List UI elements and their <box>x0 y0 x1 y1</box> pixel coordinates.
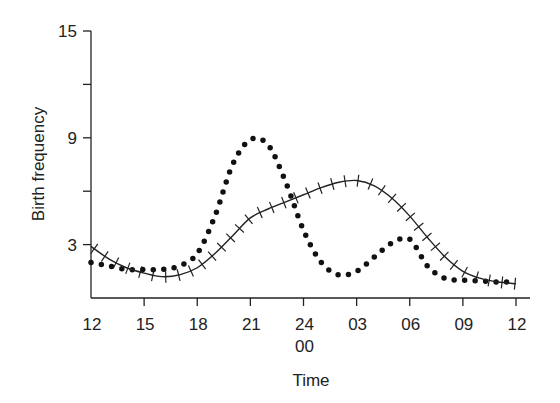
series-cross-tick <box>462 267 468 278</box>
x-tick-label: 15 <box>136 315 155 334</box>
x-tick-label: 03 <box>348 315 367 334</box>
x-tick-label: 09 <box>454 315 473 334</box>
chart: 3915 12151821240003060912 Time Birth fre… <box>0 0 560 403</box>
series-dotted <box>91 138 516 282</box>
x-tick-label: 21 <box>242 315 261 334</box>
series-layer <box>91 138 516 290</box>
series-cross-tick <box>91 244 98 254</box>
series-cross-tick <box>514 278 515 290</box>
x-tick-label: 12 <box>508 315 527 334</box>
y-tick-label: 15 <box>58 22 77 41</box>
y-axis-title: Birth frequency <box>29 106 48 221</box>
y-tick-label: 9 <box>68 129 77 148</box>
series-cross-tick <box>198 260 205 270</box>
x-tick-label: 00 <box>295 337 314 356</box>
axes <box>91 31 530 298</box>
y-ticks: 3915 <box>58 22 91 255</box>
x-tick-label: 06 <box>401 315 420 334</box>
x-axis-title: Time <box>292 371 329 390</box>
series-cross-tick <box>378 185 385 195</box>
series-cross-tick <box>357 175 359 187</box>
y-tick-label: 3 <box>68 236 77 255</box>
series-cross-tick <box>501 277 502 289</box>
x-tick-label: 12 <box>83 315 102 334</box>
series-cross-tick <box>450 260 458 269</box>
series-cross-tick <box>113 258 118 269</box>
x-tick-label: 18 <box>189 315 208 334</box>
series-cross-tick <box>101 251 108 261</box>
series-cross-tick <box>414 223 423 231</box>
x-tick-label: 24 <box>295 315 314 334</box>
x-ticks: 12151821240003060912 <box>83 298 527 356</box>
